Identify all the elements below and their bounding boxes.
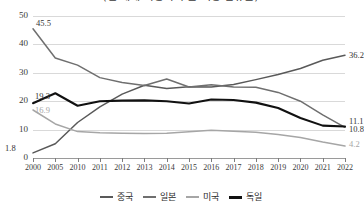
x-tick-mark: [211, 158, 212, 162]
x-tick-label: 2010: [70, 163, 86, 172]
x-tick-mark: [78, 158, 79, 162]
legend-label: 미국: [203, 192, 219, 202]
legend-label: 중국: [117, 192, 133, 202]
data-point-label: 16.9: [35, 106, 50, 115]
x-tick-mark: [55, 158, 56, 162]
legend-swatch-icon: [186, 196, 199, 199]
x-tick-mark: [323, 158, 324, 162]
x-tick-mark: [167, 158, 168, 162]
x-tick-mark: [144, 158, 145, 162]
x-tick-label: 2021: [315, 163, 331, 172]
chart-legend: 중국일본미국독일: [0, 189, 361, 205]
legend-swatch-icon: [143, 196, 156, 199]
legend-swatch-icon: [100, 196, 113, 199]
data-point-label: 10.8: [349, 125, 364, 134]
y-tick-label: 30: [3, 68, 28, 77]
x-tick-label: 2017: [226, 163, 242, 172]
x-tick-label: 2016: [203, 163, 219, 172]
data-point-label: 1.8: [5, 144, 16, 153]
legend-item[interactable]: 미국: [186, 192, 219, 202]
y-tick-label: 40: [3, 39, 28, 48]
plot-area: [33, 16, 345, 158]
data-point-label: 36.2: [349, 51, 364, 60]
gridline-20: [33, 101, 345, 102]
x-tick-label: 2022: [337, 163, 353, 172]
x-tick-label: 2012: [114, 163, 130, 172]
x-axis: 2000200520102011201220132014201520162017…: [33, 158, 345, 178]
legend-label: 독일: [246, 192, 262, 202]
x-tick-label: 2015: [181, 163, 197, 172]
y-tick-label: 20: [3, 96, 28, 105]
gridline-10: [33, 130, 345, 131]
y-tick-label: 0: [3, 153, 28, 162]
x-tick-mark: [300, 158, 301, 162]
legend-item[interactable]: 일본: [143, 192, 176, 202]
x-tick-mark: [256, 158, 257, 162]
x-tick-label: 2018: [248, 163, 264, 172]
y-tick-label: 50: [3, 11, 28, 20]
gridline-30: [33, 73, 345, 74]
x-tick-label: 2014: [159, 163, 175, 172]
x-tick-mark: [189, 158, 190, 162]
x-tick-mark: [100, 158, 101, 162]
x-tick-label: 2020: [292, 163, 308, 172]
legend-swatch-icon: [229, 196, 242, 199]
x-tick-label: 2019: [270, 163, 286, 172]
x-tick-mark: [278, 158, 279, 162]
legend-item[interactable]: 독일: [229, 192, 262, 202]
x-tick-label: 2000: [25, 163, 41, 172]
data-point-label: 45.5: [36, 19, 51, 28]
data-point-label: 19.3: [35, 92, 50, 101]
x-tick-label: 2011: [92, 163, 108, 172]
x-tick-mark: [234, 158, 235, 162]
x-tick-label: 2005: [47, 163, 63, 172]
gridline-40: [33, 44, 345, 45]
x-tick-mark: [122, 158, 123, 162]
legend-label: 일본: [160, 192, 176, 202]
data-point-label: 4.2: [349, 140, 360, 149]
x-tick-mark: [33, 158, 34, 162]
x-tick-mark: [345, 158, 346, 162]
legend-item[interactable]: 중국: [100, 192, 133, 202]
y-tick-label: 10: [3, 125, 28, 134]
gridline-50: [33, 16, 345, 17]
x-tick-label: 2013: [136, 163, 152, 172]
